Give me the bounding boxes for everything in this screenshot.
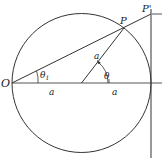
label-right-a: a bbox=[112, 87, 117, 97]
label-p: P bbox=[119, 15, 127, 26]
label-theta: θ bbox=[104, 71, 110, 81]
radius-line bbox=[82, 28, 125, 83]
geometry-diagram: O P P' θ1 θ a a a bbox=[0, 0, 162, 163]
label-p-prime: P' bbox=[141, 3, 151, 14]
label-radius-a: a bbox=[94, 51, 99, 61]
label-theta1: θ1 bbox=[40, 70, 49, 81]
theta1-arc bbox=[37, 71, 39, 83]
label-left-a: a bbox=[49, 87, 54, 97]
line-o-to-p-prime bbox=[12, 14, 151, 83]
label-origin: O bbox=[1, 77, 10, 90]
